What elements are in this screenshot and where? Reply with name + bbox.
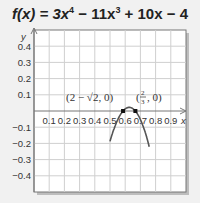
x-tick-label: 0.5: [103, 115, 116, 126]
point-label-1: (2 − √2, 0): [66, 91, 113, 104]
root-point: [133, 109, 137, 113]
x-tick-label: 0.6: [119, 115, 132, 126]
x-tick-label: 0.4: [88, 115, 101, 126]
x-tick-label: 0.3: [73, 115, 86, 126]
x-tick-label: 0.9: [164, 115, 177, 126]
svg-text:, 0): , 0): [147, 91, 162, 104]
root-point: [121, 109, 125, 113]
y-tick-label: 0.2: [18, 73, 31, 84]
y-tick-label: 0.3: [18, 57, 31, 68]
chart-plot: 0.10.20.30.40.50.60.70.80.90.40.30.20.1−…: [0, 0, 200, 203]
svg-text:3: 3: [141, 98, 145, 106]
y-tick-label: −0.3: [12, 154, 31, 165]
x-tick-label: 0.7: [134, 115, 147, 126]
svg-text:(: (: [136, 91, 140, 104]
x-tick-label: 0.8: [149, 115, 162, 126]
y-tick-label: 0.4: [18, 41, 31, 52]
svg-text:2: 2: [141, 89, 145, 97]
x-tick-label: 0.2: [58, 115, 71, 126]
y-tick-label: −0.2: [12, 138, 31, 149]
y-tick-label: −0.1: [12, 122, 31, 133]
y-tick-label: 0.1: [18, 89, 31, 100]
x-tick-label: 0.1: [43, 115, 56, 126]
y-tick-label: −0.4: [12, 170, 31, 181]
